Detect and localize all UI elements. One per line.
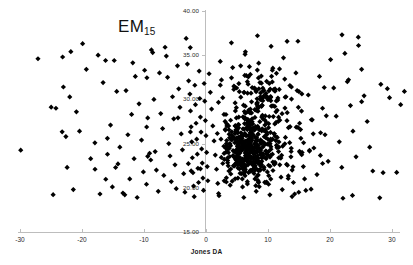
- data-point: [320, 161, 325, 166]
- data-point: [63, 134, 68, 139]
- data-point: [314, 172, 319, 177]
- data-point: [175, 115, 180, 120]
- data-point: [254, 189, 259, 194]
- data-point: [307, 148, 312, 153]
- data-point: [205, 164, 210, 169]
- data-point: [255, 67, 260, 72]
- data-point: [114, 89, 119, 94]
- data-point: [350, 193, 355, 198]
- data-point: [210, 123, 215, 128]
- data-point: [285, 110, 290, 115]
- data-point: [189, 139, 194, 144]
- data-point: [171, 116, 176, 121]
- data-point: [288, 154, 293, 159]
- data-point: [162, 45, 167, 50]
- data-point: [139, 137, 144, 142]
- scatter-plot-figure: -30-20-100102030 15.0020.0025.0030.0035.…: [0, 0, 413, 265]
- data-point: [291, 180, 296, 185]
- data-point: [238, 63, 243, 68]
- data-point: [362, 93, 367, 98]
- data-point: [188, 129, 193, 134]
- data-point: [133, 74, 138, 79]
- data-point: [205, 178, 210, 183]
- data-point: [135, 195, 140, 200]
- data-point: [308, 187, 313, 192]
- data-point: [184, 36, 189, 41]
- data-point: [77, 129, 82, 134]
- data-point: [112, 58, 117, 63]
- data-point: [191, 183, 196, 188]
- data-point: [80, 41, 85, 46]
- data-point: [190, 155, 195, 160]
- data-point: [310, 117, 315, 122]
- data-point: [208, 90, 213, 95]
- data-point: [144, 182, 149, 187]
- data-point: [302, 176, 307, 181]
- data-point: [339, 165, 344, 170]
- data-point: [320, 106, 325, 111]
- data-point: [160, 126, 165, 131]
- data-point: [207, 71, 212, 76]
- data-point: [289, 96, 294, 101]
- data-point: [270, 168, 275, 173]
- data-point: [201, 188, 206, 193]
- data-point: [280, 187, 285, 192]
- data-point: [74, 109, 79, 114]
- data-point: [164, 53, 169, 58]
- data-point: [216, 100, 221, 105]
- data-point: [181, 171, 186, 176]
- data-point: [317, 74, 322, 79]
- data-point: [130, 60, 135, 65]
- data-point: [289, 146, 294, 151]
- data-point: [215, 131, 220, 136]
- data-point: [380, 170, 385, 175]
- data-point: [196, 180, 201, 185]
- data-point: [198, 130, 203, 135]
- data-point: [157, 70, 162, 75]
- data-point: [359, 99, 364, 104]
- data-point: [84, 67, 89, 72]
- data-point: [202, 81, 207, 86]
- data-point: [204, 150, 209, 155]
- data-point: [170, 94, 175, 99]
- data-point: [214, 167, 219, 172]
- data-point: [197, 96, 202, 101]
- data-point: [248, 91, 253, 96]
- data-point: [301, 140, 306, 145]
- data-point: [278, 175, 283, 180]
- data-point: [180, 147, 185, 152]
- data-point: [185, 61, 190, 66]
- data-point: [353, 154, 358, 159]
- data-point: [218, 137, 223, 142]
- plot-title: EM15: [118, 17, 155, 37]
- data-point: [195, 152, 200, 157]
- data-point: [370, 168, 375, 173]
- data-point: [156, 189, 161, 194]
- data-points-layer: [0, 0, 413, 265]
- data-point: [166, 141, 171, 146]
- data-point: [158, 111, 163, 116]
- data-point: [356, 35, 361, 40]
- data-point: [71, 187, 76, 192]
- data-point: [306, 92, 311, 97]
- data-point: [125, 132, 130, 137]
- data-point: [350, 129, 355, 134]
- data-point: [186, 78, 191, 83]
- data-point: [295, 39, 300, 44]
- data-point: [153, 149, 158, 154]
- data-point: [283, 135, 288, 140]
- data-point: [65, 165, 70, 170]
- data-point: [269, 74, 274, 79]
- data-point: [298, 136, 303, 141]
- data-point: [322, 85, 327, 90]
- data-point: [249, 99, 254, 104]
- data-point: [322, 132, 327, 137]
- data-point: [218, 83, 223, 88]
- data-point: [92, 167, 97, 172]
- data-point: [103, 177, 108, 182]
- plot-title-subscript: 15: [144, 26, 155, 37]
- data-point: [303, 188, 308, 193]
- data-point: [199, 146, 204, 151]
- data-point: [356, 43, 361, 48]
- data-point: [103, 58, 108, 63]
